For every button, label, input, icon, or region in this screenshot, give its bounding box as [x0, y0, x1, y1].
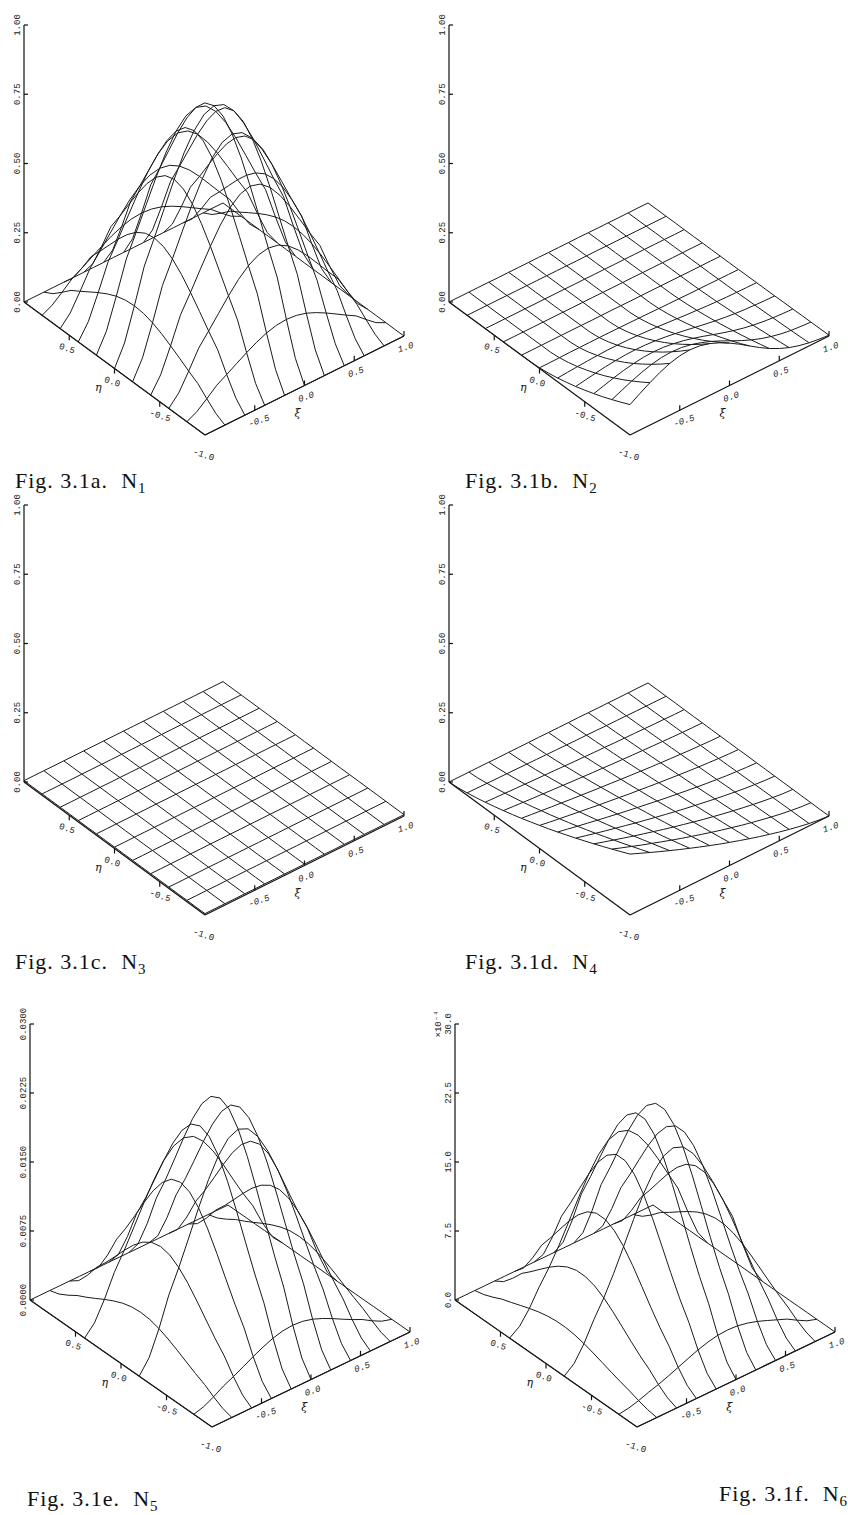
- surface-plot-c: 0.000.250.500.751.000.50.0-0.5-1.0-0.50.…: [0, 480, 420, 920]
- eta-tick-label: 0.0: [534, 1370, 553, 1385]
- caption-prefix: Fig. 3.1e.: [27, 1486, 120, 1511]
- figure-panel-e: 0.00000.00750.01500.02250.03000.50.0-0.5…: [0, 962, 420, 1432]
- z-tick-label: 0.50: [438, 633, 448, 655]
- z-tick-label: 0.0000: [19, 1284, 29, 1316]
- eta-tick-label: 0.5: [58, 822, 77, 837]
- xi-tick-label: 0.0: [297, 390, 316, 405]
- z-tick-label: 30.0: [444, 1013, 454, 1035]
- surface-plot-b: 0.000.250.500.751.000.50.0-0.5-1.0-0.50.…: [425, 0, 847, 440]
- eta-tick-label: -1.0: [192, 927, 216, 943]
- xi-axis-label: ξ: [720, 407, 727, 420]
- z-tick-label: 0.00: [438, 771, 448, 793]
- xi-tick-label: 0.0: [729, 1384, 748, 1399]
- z-tick-label: 0.25: [13, 222, 23, 244]
- z-tick-label: 15.0: [444, 1151, 454, 1173]
- xi-axis-label: ξ: [301, 1401, 308, 1414]
- z-tick-label: 0.25: [13, 702, 23, 724]
- z-tick-label: 1.00: [438, 14, 448, 36]
- z-multiplier-label: ×10⁻⁴: [433, 1010, 444, 1037]
- eta-tick-label: 0.0: [103, 855, 122, 870]
- surface-wireframe: [449, 683, 829, 854]
- xi-tick-label: 1.0: [397, 821, 416, 836]
- xi-tick-label: 1.0: [828, 1337, 847, 1352]
- surface-wireframe: [449, 203, 829, 405]
- eta-axis-label: η: [95, 861, 102, 874]
- xi-axis-label: ξ: [726, 1401, 733, 1414]
- xi-tick-label: -0.5: [672, 413, 696, 429]
- z-tick-label: 0.25: [438, 702, 448, 724]
- figure-panel-f: 0.07.515.022.530.0×10⁻⁴0.50.0-0.5-1.0-0.…: [425, 962, 847, 1432]
- figure-panel-a: 0.000.250.500.751.000.50.0-0.5-1.0-0.50.…: [0, 0, 420, 440]
- xi-tick-label: 0.0: [722, 390, 741, 405]
- eta-tick-label: 0.0: [103, 375, 122, 390]
- eta-tick-label: 0.0: [528, 375, 547, 390]
- xi-tick-label: -0.5: [672, 893, 696, 909]
- surface-wireframe: [30, 1096, 410, 1427]
- z-tick-label: 0.75: [13, 563, 23, 585]
- eta-axis-label: η: [520, 381, 527, 394]
- z-tick-label: 7.5: [444, 1223, 454, 1239]
- caption-symbol: N: [823, 1481, 840, 1506]
- xi-tick-label: 0.0: [304, 1384, 323, 1399]
- xi-axis-label: ξ: [720, 887, 727, 900]
- eta-tick-label: -1.0: [199, 1439, 223, 1455]
- z-tick-label: 0.50: [13, 153, 23, 175]
- eta-axis-label: η: [527, 1376, 534, 1389]
- eta-tick-label: -1.0: [192, 447, 216, 463]
- xi-tick-label: 0.0: [297, 870, 316, 885]
- eta-tick-label: 0.5: [489, 1338, 508, 1353]
- z-tick-label: 0.50: [438, 153, 448, 175]
- xi-tick-label: 1.0: [822, 821, 841, 836]
- caption-subscript: 5: [150, 1498, 159, 1514]
- surface-wireframe: [24, 103, 404, 435]
- eta-tick-label: 0.5: [64, 1338, 83, 1353]
- z-tick-label: 0.00: [13, 291, 23, 313]
- eta-axis-label: η: [520, 861, 527, 874]
- z-tick-label: 0.75: [438, 563, 448, 585]
- xi-tick-label: -0.5: [247, 893, 271, 909]
- surface-wireframe: [24, 682, 404, 914]
- eta-tick-label: -1.0: [617, 447, 641, 463]
- figure-caption-f: Fig. 3.1f. N6: [706, 1455, 848, 1510]
- eta-tick-label: -0.5: [155, 1402, 179, 1418]
- z-tick-label: 1.00: [13, 14, 23, 36]
- eta-tick-label: 0.0: [528, 855, 547, 870]
- z-tick-label: 22.5: [444, 1082, 454, 1104]
- xi-tick-label: 0.0: [722, 870, 741, 885]
- xi-tick-label: 1.0: [822, 341, 841, 356]
- xi-tick-label: 0.5: [353, 1360, 372, 1375]
- z-tick-label: 0.0300: [19, 1008, 29, 1040]
- caption-subscript: 6: [840, 1493, 848, 1509]
- eta-tick-label: 0.5: [483, 822, 502, 837]
- surface-plot-a: 0.000.250.500.751.000.50.0-0.5-1.0-0.50.…: [0, 0, 420, 440]
- eta-tick-label: 0.5: [483, 342, 502, 357]
- eta-tick-label: -0.5: [573, 408, 597, 424]
- xi-tick-label: 0.5: [772, 365, 791, 380]
- xi-tick-label: 1.0: [403, 1337, 422, 1352]
- z-tick-label: 0.75: [13, 83, 23, 105]
- z-tick-label: 0.00: [438, 291, 448, 313]
- eta-tick-label: -0.5: [148, 888, 172, 904]
- xi-tick-label: -0.5: [679, 1406, 703, 1422]
- xi-axis-label: ξ: [295, 887, 302, 900]
- z-tick-label: 0.75: [438, 83, 448, 105]
- z-tick-label: 0.0225: [19, 1077, 29, 1109]
- surface-plot-e: 0.00000.00750.01500.02250.03000.50.0-0.5…: [0, 962, 420, 1432]
- z-tick-label: 0.00: [13, 771, 23, 793]
- surface-plot-f: 0.07.515.022.530.0×10⁻⁴0.50.0-0.5-1.0-0.…: [425, 962, 847, 1432]
- z-tick-label: 0.50: [13, 633, 23, 655]
- xi-tick-label: 0.5: [347, 845, 366, 860]
- z-tick-label: 0.0: [444, 1292, 454, 1308]
- caption-prefix: Fig. 3.1f.: [719, 1481, 810, 1506]
- z-tick-label: 1.00: [13, 494, 23, 516]
- eta-tick-label: 0.0: [109, 1370, 128, 1385]
- eta-tick-label: -0.5: [573, 888, 597, 904]
- xi-axis-label: ξ: [295, 407, 302, 420]
- xi-tick-label: 0.5: [347, 365, 366, 380]
- xi-tick-label: 0.5: [778, 1360, 797, 1375]
- xi-tick-label: 0.5: [772, 845, 791, 860]
- eta-tick-label: 0.5: [58, 342, 77, 357]
- xi-tick-label: -0.5: [254, 1406, 278, 1422]
- surface-plot-d: 0.000.250.500.751.000.50.0-0.5-1.0-0.50.…: [425, 480, 847, 920]
- z-tick-label: 0.0075: [19, 1215, 29, 1247]
